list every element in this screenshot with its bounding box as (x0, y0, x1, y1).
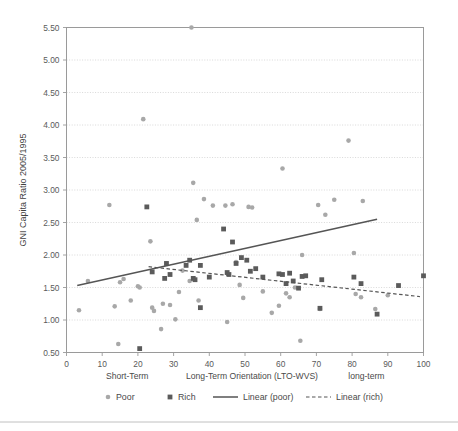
data-point-poor (223, 203, 228, 208)
y-tick-label: 3.50 (43, 153, 60, 163)
legend-marker-circle (106, 395, 111, 400)
data-point-rich (144, 205, 149, 210)
series-points-rich (137, 205, 426, 352)
data-point-rich (396, 283, 401, 288)
data-point-rich (351, 275, 356, 280)
data-point-poor (225, 320, 230, 325)
x-axis-tickmarks (67, 353, 424, 357)
chart-legend: PoorRichLinear (poor)Linear (rich) (106, 392, 383, 402)
data-point-rich (150, 270, 155, 275)
y-tick-label: 3.00 (43, 185, 60, 195)
y-tick-label: 5.00 (43, 55, 60, 65)
data-point-rich (227, 272, 232, 277)
y-tick-label: 2.00 (43, 250, 60, 260)
data-point-poor (298, 339, 303, 344)
data-point-poor (128, 298, 133, 303)
legend-item: Linear (poor) (213, 392, 293, 402)
data-point-rich (168, 272, 173, 277)
data-point-poor (352, 251, 357, 256)
series-points-poor (77, 25, 390, 346)
data-point-poor (237, 283, 242, 288)
data-point-poor (121, 277, 126, 282)
data-point-poor (300, 253, 305, 258)
plot-frame (67, 28, 424, 353)
data-point-poor (287, 295, 292, 300)
x-tick-label: 50 (240, 359, 250, 369)
data-point-poor (161, 301, 166, 306)
y-axis-title: GNI Capita Ratio 2005/1995 (18, 133, 28, 246)
x-tick-label: 60 (276, 359, 286, 369)
data-point-poor (137, 285, 142, 290)
data-point-rich (359, 281, 364, 286)
data-point-poor (152, 309, 157, 314)
data-point-rich (207, 275, 212, 280)
y-axis-tick-labels: 0.501.001.502.002.503.003.504.004.505.00… (43, 23, 60, 358)
data-point-poor (241, 296, 246, 301)
data-point-rich (280, 272, 285, 277)
data-point-poor (77, 308, 82, 313)
y-axis-tickmarks (63, 28, 67, 353)
legend-item: Rich (168, 392, 196, 402)
x-tick-label: 20 (133, 359, 143, 369)
y-tick-label: 1.00 (43, 315, 60, 325)
data-point-poor (116, 342, 121, 347)
x-tick-label: 100 (417, 359, 431, 369)
chart-figure: 0.501.001.502.002.503.003.504.004.505.00… (0, 0, 458, 431)
x-tick-label: 30 (169, 359, 179, 369)
y-tick-label: 2.50 (43, 218, 60, 228)
data-point-rich (253, 266, 258, 271)
x-axis-annotation: long-term (348, 371, 384, 381)
data-point-poor (230, 202, 235, 207)
data-point-rich (162, 276, 167, 281)
data-point-poor (332, 197, 337, 202)
legend-marker-square (168, 395, 173, 400)
legend-label: Linear (rich) (336, 392, 383, 402)
legend-item: Linear (rich) (306, 392, 383, 402)
data-point-rich (319, 277, 324, 282)
x-tick-label: 40 (205, 359, 215, 369)
data-point-rich (421, 273, 426, 278)
data-point-rich (239, 255, 244, 260)
data-point-rich (375, 312, 380, 317)
data-point-rich (244, 258, 249, 263)
x-tick-label: 80 (347, 359, 357, 369)
data-point-poor (196, 298, 201, 303)
data-point-poor (159, 327, 164, 332)
legend-item: Poor (106, 392, 135, 402)
data-point-poor (316, 203, 321, 208)
legend-label: Poor (116, 392, 135, 402)
x-tick-label: 70 (312, 359, 322, 369)
data-point-rich (287, 271, 292, 276)
data-point-poor (250, 205, 255, 210)
data-point-rich (198, 305, 203, 310)
data-point-rich (137, 346, 142, 351)
y-tick-label: 5.50 (43, 23, 60, 33)
data-point-rich (234, 261, 239, 266)
data-point-poor (168, 303, 173, 308)
data-point-poor (269, 311, 274, 316)
y-tick-label: 1.50 (43, 283, 60, 293)
data-point-poor (261, 289, 266, 294)
data-point-rich (303, 273, 308, 278)
data-point-poor (189, 25, 194, 30)
data-point-poor (118, 280, 123, 285)
x-tick-label: 10 (98, 359, 108, 369)
data-point-rich (318, 306, 323, 311)
x-axis-title: Long-Term Orientation (LTO-WVS) (186, 371, 318, 381)
data-point-poor (107, 203, 112, 208)
data-point-poor (359, 295, 364, 300)
data-point-poor (361, 199, 366, 204)
data-point-poor (277, 303, 282, 308)
data-point-poor (191, 181, 196, 186)
data-point-poor (141, 117, 146, 122)
legend-label: Rich (178, 392, 196, 402)
data-point-poor (211, 203, 216, 208)
data-point-rich (230, 240, 235, 245)
data-point-rich (184, 263, 189, 268)
y-tick-label: 4.00 (43, 120, 60, 130)
data-point-poor (173, 317, 178, 322)
data-point-poor (280, 166, 285, 171)
data-point-poor (195, 218, 200, 223)
data-point-poor (353, 292, 358, 297)
data-point-poor (112, 304, 117, 309)
